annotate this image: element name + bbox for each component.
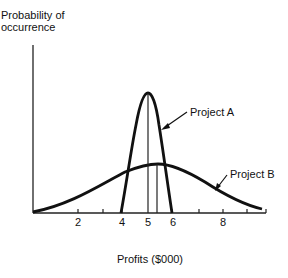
x-tick-label-6: 6	[170, 216, 176, 228]
x-tick-label-4: 4	[119, 216, 125, 228]
project-a-label: Project A	[190, 106, 234, 118]
project-a-arrow	[161, 112, 187, 130]
x-tick-label-8: 8	[220, 216, 226, 228]
x-tick-label-2: 2	[75, 216, 81, 228]
project-a-curve	[121, 93, 172, 213]
x-axis-label: Profits ($000)	[117, 253, 183, 265]
project-b-label: Project B	[230, 168, 275, 180]
project-b-arrow	[215, 175, 227, 191]
x-tick-label-5: 5	[145, 216, 151, 228]
chart-plot	[0, 0, 288, 278]
